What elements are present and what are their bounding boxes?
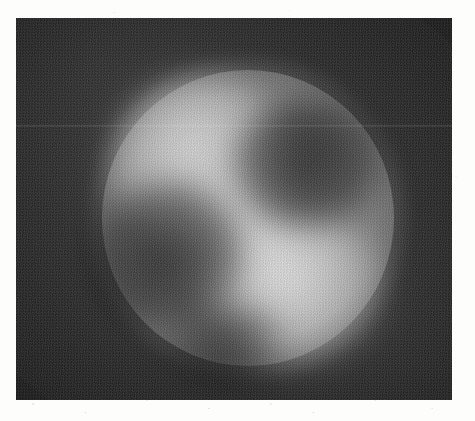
vignette-overlay bbox=[16, 18, 452, 400]
scanned-page: Grayscale micrograph of a bright circula… bbox=[0, 0, 475, 421]
image-alt-text: Grayscale micrograph of a bright circula… bbox=[0, 0, 1, 1]
micrograph-image bbox=[16, 18, 452, 400]
